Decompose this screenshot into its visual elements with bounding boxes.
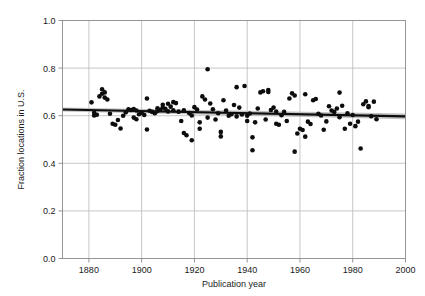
xtick-label: 1940 (237, 265, 257, 275)
data-point (134, 117, 139, 122)
data-point (208, 101, 213, 106)
data-point (102, 90, 107, 95)
data-point (364, 99, 369, 104)
data-point (292, 93, 297, 98)
data-point (211, 107, 216, 112)
axes-frame (63, 21, 406, 259)
ytick-label: 0.8 (43, 64, 56, 74)
xtick-label: 1920 (184, 265, 204, 275)
data-point (184, 133, 189, 138)
gridlines (63, 21, 406, 259)
data-point (277, 122, 282, 127)
data-point (358, 146, 363, 151)
ytick-label: 0.2 (43, 206, 56, 216)
data-point (343, 126, 348, 131)
data-point (145, 127, 150, 132)
data-point (250, 148, 255, 153)
data-point (340, 103, 345, 108)
data-point (250, 135, 255, 140)
data-point (335, 106, 340, 111)
xtick-label: 1880 (79, 265, 99, 275)
data-point (245, 119, 250, 124)
data-point (348, 121, 353, 126)
data-point (266, 90, 271, 95)
data-point (113, 122, 118, 127)
data-point (219, 134, 224, 139)
data-point (292, 149, 297, 154)
data-point (205, 67, 210, 72)
data-point (232, 103, 237, 108)
data-point (205, 115, 210, 120)
xtick-label: 1980 (343, 265, 363, 275)
xtick-label: 1960 (290, 265, 310, 275)
data-point (321, 127, 326, 132)
data-point (327, 104, 332, 109)
data-point (303, 92, 308, 97)
data-point (287, 96, 292, 101)
data-point (89, 100, 94, 105)
data-point (145, 96, 150, 101)
data-point (142, 113, 147, 118)
data-point (197, 120, 202, 125)
data-point (213, 117, 218, 122)
data-point (263, 117, 268, 122)
data-point (197, 126, 202, 131)
data-point (284, 119, 289, 124)
data-point (179, 119, 184, 124)
chart-canvas: 18801900192019401960198020000.00.20.40.6… (0, 0, 425, 296)
data-point (300, 128, 305, 133)
xtick-label: 2000 (395, 265, 415, 275)
data-point (261, 89, 266, 94)
data-point (234, 85, 239, 90)
data-point (253, 120, 258, 125)
tick-marks (59, 21, 406, 263)
data-point (203, 97, 208, 102)
data-point (189, 138, 194, 143)
plot-frame (63, 21, 406, 259)
ytick-label: 0.0 (43, 254, 56, 264)
data-point (118, 126, 123, 131)
data-point (303, 134, 308, 139)
ytick-label: 0.6 (43, 111, 56, 121)
tick-labels: 18801900192019401960198020000.00.20.40.6… (43, 16, 416, 275)
data-point (234, 114, 239, 119)
data-point (372, 99, 377, 104)
data-point (313, 97, 318, 102)
data-point (237, 105, 242, 110)
xtick-label: 1900 (132, 265, 152, 275)
scatter-plot-figure: 18801900192019401960198020000.00.20.40.6… (0, 0, 425, 296)
data-point (366, 104, 371, 109)
x-axis-title: Publication year (202, 279, 266, 289)
data-point (324, 119, 329, 124)
data-point (308, 122, 313, 127)
data-point (242, 84, 247, 89)
data-point (116, 118, 121, 123)
ytick-label: 1.0 (43, 16, 56, 26)
data-point (295, 131, 300, 136)
y-axis-title: Fraction locations in U.S. (16, 89, 26, 189)
data-point (108, 112, 113, 117)
data-point (219, 130, 224, 135)
data-point (337, 90, 342, 95)
data-point (255, 106, 260, 111)
data-point (105, 97, 110, 102)
data-point (95, 112, 100, 117)
data-point (356, 119, 361, 124)
ytick-label: 0.4 (43, 159, 56, 169)
data-point (189, 113, 194, 118)
data-point (271, 105, 276, 110)
data-point (221, 98, 226, 103)
data-point (374, 117, 379, 122)
data-point (353, 124, 358, 129)
data-point (174, 101, 179, 106)
